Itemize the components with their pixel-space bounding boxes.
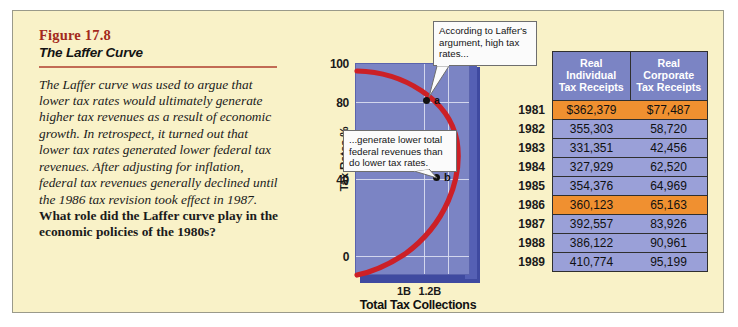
y-tick-40: 40: [315, 173, 349, 187]
figure-title: The Laffer Curve: [39, 45, 285, 60]
column-header-individual-line1: Real: [555, 57, 628, 69]
x-tick-1b: 1B: [397, 285, 411, 297]
column-header-corporate-line3: Tax Receipts: [633, 81, 706, 93]
row-year: 1987: [503, 214, 553, 233]
y-tick-100: 100: [315, 57, 349, 71]
callout-lower-revenues-tail: [413, 169, 443, 185]
row-year: 1984: [503, 157, 553, 176]
cell-corporate-receipts: 64,969: [630, 176, 708, 195]
callout-high-rates-tail: [425, 63, 453, 103]
row-year: 1985: [503, 176, 553, 195]
cell-individual-receipts: 410,774: [553, 252, 631, 271]
column-header-year: [503, 52, 553, 101]
x-tick-1-2b: 1.2B: [419, 285, 441, 297]
callout-lower-revenues-text: ...generate lower total federal revenues…: [349, 134, 443, 168]
y-tick-80: 80: [315, 96, 349, 110]
row-year: 1986: [503, 195, 553, 214]
table-row: 1988386,12290,961: [503, 233, 708, 252]
cell-corporate-receipts: $77,487: [630, 100, 708, 119]
figure-text-column: Figure 17.8 The Laffer Curve The Laffer …: [39, 27, 285, 241]
cell-corporate-receipts: 42,456: [630, 138, 708, 157]
laffer-curve-chart: Tax Rates % 100 80 40 0 a b According to…: [305, 45, 505, 303]
callout-lower-revenues: ...generate lower total federal revenues…: [343, 130, 457, 172]
cell-corporate-receipts: 95,199: [630, 252, 708, 271]
figure-body-text: The Laffer curve was used to argue that …: [39, 77, 280, 241]
column-header-corporate-line2: Corporate: [633, 69, 706, 81]
column-header-individual-line3: Tax Receipts: [555, 81, 628, 93]
cell-individual-receipts: 392,557: [553, 214, 631, 233]
tax-receipts-table: Real Individual Tax Receipts Real Corpor…: [503, 51, 708, 272]
column-header-individual-line2: Individual: [555, 69, 628, 81]
cell-corporate-receipts: 65,163: [630, 195, 708, 214]
cell-corporate-receipts: 58,720: [630, 119, 708, 138]
table-row: 1982355,30358,720: [503, 119, 708, 138]
cell-individual-receipts: 355,303: [553, 119, 631, 138]
table-row: 1984327,92962,520: [503, 157, 708, 176]
cell-individual-receipts: 360,123: [553, 195, 631, 214]
table-head: Real Individual Tax Receipts Real Corpor…: [503, 52, 708, 101]
cell-individual-receipts: 354,376: [553, 176, 631, 195]
cell-corporate-receipts: 83,926: [630, 214, 708, 233]
table-body: 1981$362,379$77,4871982355,30358,7201983…: [503, 100, 708, 271]
column-header-individual: Real Individual Tax Receipts: [553, 52, 631, 101]
figure-frame: Figure 17.8 The Laffer Curve The Laffer …: [12, 10, 724, 313]
row-year: 1983: [503, 138, 553, 157]
table-row: 1987392,55783,926: [503, 214, 708, 233]
figure-body-paragraph: The Laffer curve was used to argue that …: [39, 77, 278, 207]
cell-corporate-receipts: 90,961: [630, 233, 708, 252]
title-divider: [39, 66, 277, 68]
table-row: 1985354,37664,969: [503, 176, 708, 195]
y-tick-0: 0: [315, 250, 349, 264]
figure-body-question: What role did the Laffer curve play in t…: [39, 208, 278, 239]
table-row: 1981$362,379$77,487: [503, 100, 708, 119]
data-point-b-label: b: [444, 171, 451, 183]
row-year: 1988: [503, 233, 553, 252]
table-row: 1986360,12365,163: [503, 195, 708, 214]
x-axis-ticks: 1B 1.2B: [397, 285, 507, 297]
cell-individual-receipts: 386,122: [553, 233, 631, 252]
column-header-corporate-line1: Real: [633, 57, 706, 69]
figure-number: Figure 17.8: [39, 27, 285, 44]
x-axis-title: Total Tax Collections: [333, 298, 503, 312]
y-axis-ticks: 100 80 40 0: [315, 45, 349, 303]
column-header-corporate: Real Corporate Tax Receipts: [630, 52, 708, 101]
row-year: 1982: [503, 119, 553, 138]
table-row: 1989410,77495,199: [503, 252, 708, 271]
cell-corporate-receipts: 62,520: [630, 157, 708, 176]
table-row: 1983331,35142,456: [503, 138, 708, 157]
tax-receipts-table-wrapper: Real Individual Tax Receipts Real Corpor…: [503, 51, 708, 272]
cell-individual-receipts: 327,929: [553, 157, 631, 176]
cell-individual-receipts: 331,351: [553, 138, 631, 157]
table-header-row: Real Individual Tax Receipts Real Corpor…: [503, 52, 708, 101]
row-year: 1989: [503, 252, 553, 271]
row-year: 1981: [503, 100, 553, 119]
cell-individual-receipts: $362,379: [553, 100, 631, 119]
